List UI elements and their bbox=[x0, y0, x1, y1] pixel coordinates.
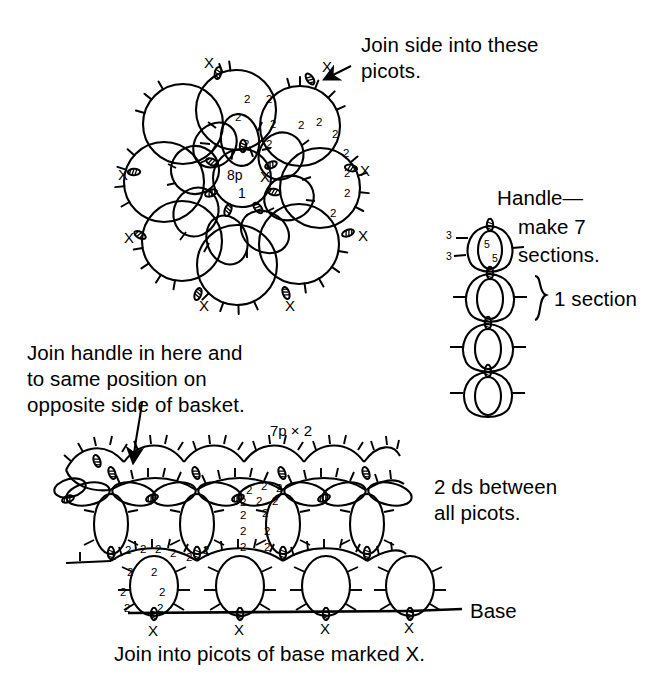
handle-section-3 bbox=[450, 317, 526, 372]
rosette-x-mark-bottom-left: X bbox=[199, 296, 209, 315]
basket-stitch-lower-12: 2 bbox=[124, 601, 130, 616]
basket-stitch-lower-3: 2 bbox=[140, 542, 146, 557]
basket-side-diagram bbox=[52, 402, 462, 620]
basket-stitch-lower-9: 2 bbox=[151, 565, 157, 580]
basket-stitch-lower-10: 2 bbox=[120, 585, 126, 600]
bottom-caption: Join into picots of base marked X. bbox=[114, 641, 425, 667]
basket-stitch-lower-6: 2 bbox=[186, 550, 192, 565]
basket-stitch-lower-8: 2 bbox=[127, 565, 133, 580]
note-ds-between-line2: all picots. bbox=[434, 500, 521, 526]
basket-stitch-lower-2: 2 bbox=[125, 543, 131, 558]
basket-stitch-lower-4: 2 bbox=[155, 542, 161, 557]
basket-stitch-mid-10: 2 bbox=[264, 524, 270, 539]
section-brace-icon bbox=[535, 276, 546, 320]
diagram-page: Join side into these picots. X X X X X X… bbox=[0, 0, 661, 693]
rosette-x-mark-top-right: X bbox=[322, 57, 332, 76]
base-x-mark-1: X bbox=[148, 621, 158, 640]
basket-stitch-mid-2: 2 bbox=[261, 479, 267, 494]
handle-chain-count-left-1: 3 bbox=[446, 229, 452, 242]
rosette-stitch-count-3: 2 bbox=[243, 137, 249, 152]
handle-section-2 bbox=[453, 267, 527, 322]
basket-base-join-picots bbox=[151, 608, 413, 620]
rosette-stitch-count-5: 2 bbox=[270, 117, 276, 132]
rosette-outer-join-picots bbox=[128, 66, 358, 301]
basket-stitch-mid-7: 2 bbox=[262, 506, 268, 521]
rosette-stitch-count-6: 2 bbox=[266, 137, 272, 152]
basket-top-arc-label: 7p × 2 bbox=[270, 421, 312, 440]
rosette-stitch-count-7: 2 bbox=[298, 118, 304, 133]
note-join-side-picots-line2: picots. bbox=[361, 58, 421, 84]
basket-stitch-mid-9: 2 bbox=[240, 524, 246, 539]
rosette-x-mark-bottom-right: X bbox=[285, 296, 295, 315]
note-join-handle-line1: Join handle in here and bbox=[27, 340, 242, 366]
basket-clover-picots bbox=[84, 510, 394, 545]
handle-heading-line3: sections. bbox=[518, 242, 600, 268]
basket-stitch-mid-12: 2 bbox=[264, 540, 270, 555]
basket-base-rings bbox=[130, 556, 434, 616]
handle-chain-count-left-2: 3 bbox=[446, 250, 452, 263]
rosette-stitch-count-8: 2 bbox=[316, 115, 322, 130]
basket-stitch-mid-8: 2 bbox=[240, 508, 246, 523]
rosette-x-mark-right-upper: X bbox=[360, 161, 370, 180]
note-ds-between-line1: 2 ds between bbox=[434, 474, 557, 500]
basket-top-arc-row bbox=[66, 446, 400, 471]
rosette-stitch-count-4: 2 bbox=[266, 92, 272, 107]
rosette-stitch-count-12: 2 bbox=[344, 186, 350, 201]
base-x-mark-3: X bbox=[320, 619, 330, 638]
basket-stitch-mid-6: 2 bbox=[272, 494, 278, 509]
note-join-handle-line2: to same position on bbox=[27, 366, 207, 392]
rosette-x-mark-left-lower: X bbox=[124, 228, 134, 247]
basket-stitch-lower-11: 2 bbox=[159, 585, 165, 600]
base-x-mark-4: X bbox=[404, 618, 414, 637]
rosette-stitch-count-10: 2 bbox=[343, 146, 349, 161]
handle-section-4 bbox=[450, 365, 525, 417]
base-x-mark-2: X bbox=[234, 620, 244, 639]
basket-stitch-mid-11: 2 bbox=[240, 540, 246, 555]
rosette-stitch-count-1: 2 bbox=[244, 92, 250, 107]
handle-heading-line1: Handle— bbox=[497, 185, 583, 211]
handle-heading-line2: make 7 bbox=[518, 214, 586, 240]
rosette-x-mark-right-lower: X bbox=[358, 226, 368, 245]
handle-ring-count-inner-1: 5 bbox=[484, 238, 490, 251]
note-join-side-picots-line1: Join side into these bbox=[361, 32, 539, 58]
rosette-x-mark-top-left: X bbox=[204, 53, 214, 72]
rosette-stitch-count-11: 2 bbox=[344, 166, 350, 181]
basket-stitch-lower-5: 2 bbox=[170, 546, 176, 561]
picot-pointer-arrow bbox=[331, 66, 351, 76]
rosette-stitch-count-2: 2 bbox=[235, 110, 241, 125]
basket-stitch-lower-7: 2 bbox=[203, 543, 209, 558]
handle-ring-count-inner-2: 5 bbox=[492, 252, 498, 265]
rosette-stitch-count-13: 2 bbox=[330, 206, 336, 221]
rosette-center-join-mark: X bbox=[260, 167, 270, 186]
rosette-center-ring-number: 1 bbox=[238, 185, 246, 203]
base-label: Base bbox=[470, 598, 517, 624]
rosette-center-picot-count: 8p bbox=[227, 167, 243, 185]
basket-stitch-lower-13: 2 bbox=[157, 601, 163, 616]
handle-one-section-label: 1 section bbox=[554, 286, 637, 312]
basket-stitch-lower-1: 2 bbox=[110, 549, 116, 564]
rosette-stitch-count-9: 2 bbox=[332, 127, 338, 142]
basket-stitch-mid-1: 2 bbox=[246, 483, 252, 498]
note-join-handle-line3: opposite side of basket. bbox=[27, 392, 245, 418]
rosette-x-mark-left-upper: X bbox=[118, 165, 128, 184]
basket-base-ring-picots bbox=[118, 567, 446, 610]
